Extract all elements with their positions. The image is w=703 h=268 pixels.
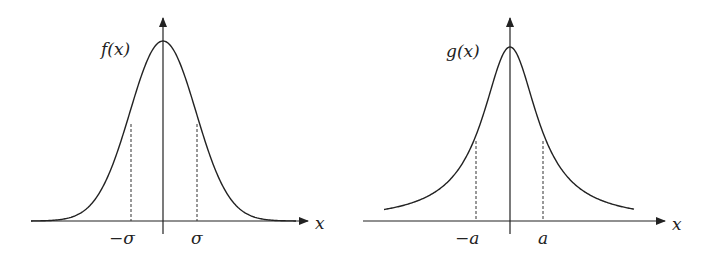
pos-a-tick-label: a (538, 228, 548, 248)
neg-sigma-tick-label: −σ (109, 228, 135, 248)
f-of-x-label: f(x) (99, 39, 130, 59)
g-of-x-label: g(x) (446, 41, 480, 61)
figure: f(x) x −σ σ g(x) x −a a (0, 0, 703, 268)
neg-a-tick-label: −a (455, 228, 479, 248)
x-axis-label: x (672, 214, 682, 234)
x-axis-label: x (315, 213, 325, 233)
pos-sigma-tick-label: σ (191, 228, 203, 248)
lorentzian-curve (384, 47, 634, 210)
gaussian-plot: f(x) x −σ σ (31, 18, 325, 248)
lorentzian-plot: g(x) x −a a (363, 18, 682, 248)
